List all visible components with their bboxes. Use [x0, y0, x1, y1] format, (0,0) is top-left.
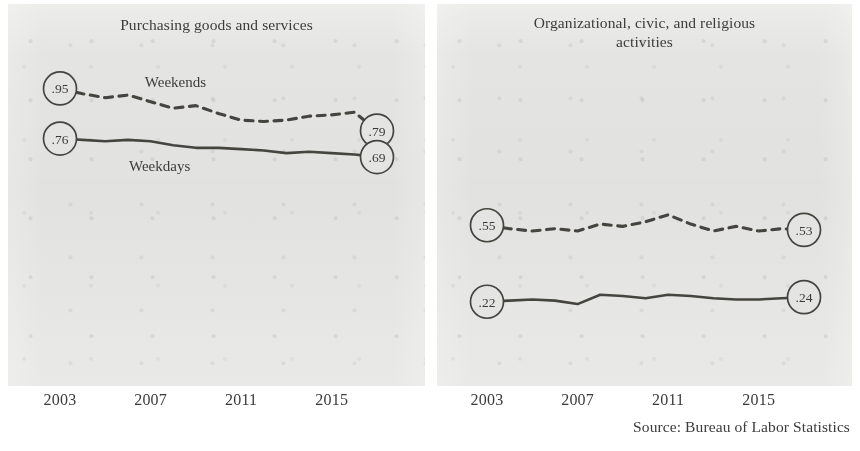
x-tick-2015: 2015	[315, 391, 348, 409]
endpoint-label-weekdays-end: .24	[788, 281, 821, 314]
endpoint-label-weekdays-end: .69	[361, 141, 394, 174]
endpoint-value: .76	[52, 132, 69, 147]
endpoint-label-weekdays-start: .22	[471, 285, 504, 318]
endpoint-value: .69	[369, 150, 386, 165]
series-line-weekdays	[76, 140, 360, 156]
x-tick-2003: 2003	[44, 391, 77, 409]
series-line-weekends	[503, 215, 787, 231]
series-line-weekends	[76, 92, 364, 121]
endpoint-label-weekends-start: .55	[471, 209, 504, 242]
line-chart-organizational: .55.53.22.24	[437, 4, 852, 386]
x-tick-2011: 2011	[652, 391, 684, 409]
series-annotation-weekdays: Weekdays	[129, 158, 190, 174]
x-tick-2007: 2007	[561, 391, 594, 409]
endpoint-label-weekends-start: .95	[44, 72, 77, 105]
endpoint-value: .24	[796, 290, 813, 305]
x-tick-2007: 2007	[134, 391, 167, 409]
endpoint-label-weekdays-start: .76	[44, 122, 77, 155]
x-tick-2003: 2003	[471, 391, 504, 409]
endpoint-value: .53	[796, 223, 813, 238]
line-chart-purchasing: .95.79.76.69WeekendsWeekdays	[8, 4, 425, 386]
series-line-weekdays	[503, 295, 787, 304]
endpoint-value: .55	[479, 218, 496, 233]
endpoint-label-weekends-end: .53	[788, 213, 821, 246]
x-tick-2015: 2015	[742, 391, 775, 409]
series-annotation-weekends: Weekends	[145, 74, 206, 90]
endpoint-value: .95	[52, 81, 69, 96]
figure-time-use-trends: Purchasing goods and services .95.79.76.…	[0, 0, 860, 451]
endpoint-value: .79	[369, 124, 386, 139]
source-note: Source: Bureau of Labor Statistics	[633, 418, 850, 436]
x-tick-2011: 2011	[225, 391, 257, 409]
x-axis-ticks-purchasing: 2003200720112015	[8, 391, 425, 413]
x-axis-ticks-organizational: 2003200720112015	[437, 391, 852, 413]
endpoint-value: .22	[479, 295, 496, 310]
